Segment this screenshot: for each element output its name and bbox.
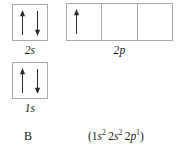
- orbital-label-2p: 2p: [66, 44, 173, 57]
- orbital-group-2p: 2p: [66, 3, 173, 41]
- electron-configuration: (1s22s22p1): [88, 129, 144, 143]
- orbital-label-1s: 1s: [12, 102, 48, 115]
- config-electron-count: 2: [119, 128, 123, 137]
- spin-up-arrow-icon: [18, 68, 27, 94]
- config-electron-count: 2: [102, 128, 106, 137]
- spin-up-arrow-icon: [72, 9, 81, 35]
- orbital-box-row-2p: [66, 3, 173, 41]
- orbital-diagram: 2s 2p: [0, 0, 178, 150]
- orbital-box-row-2s: [12, 4, 48, 41]
- spin-up-arrow-icon: [18, 10, 27, 36]
- orbital-box-row-1s: [12, 62, 48, 99]
- orbital-cell-2p-0[interactable]: [67, 4, 101, 40]
- orbital-label-2s: 2s: [12, 44, 48, 57]
- orbital-cell-2s-0[interactable]: [13, 5, 47, 40]
- spin-down-arrow-icon: [33, 10, 42, 36]
- orbital-group-2s: 2s: [12, 4, 48, 41]
- orbital-group-1s: 1s: [12, 62, 48, 99]
- config-group-1s: 1s2: [92, 130, 106, 142]
- config-close-paren: ): [140, 130, 144, 142]
- orbital-cell-2p-1[interactable]: [101, 4, 136, 40]
- element-symbol: B: [24, 129, 32, 143]
- config-group-2s: 2s2: [108, 130, 122, 142]
- config-group-2p: 2p1: [125, 130, 140, 142]
- spin-down-arrow-icon: [33, 68, 42, 94]
- orbital-cell-2p-2[interactable]: [137, 4, 172, 40]
- orbital-cell-1s-0[interactable]: [13, 63, 47, 98]
